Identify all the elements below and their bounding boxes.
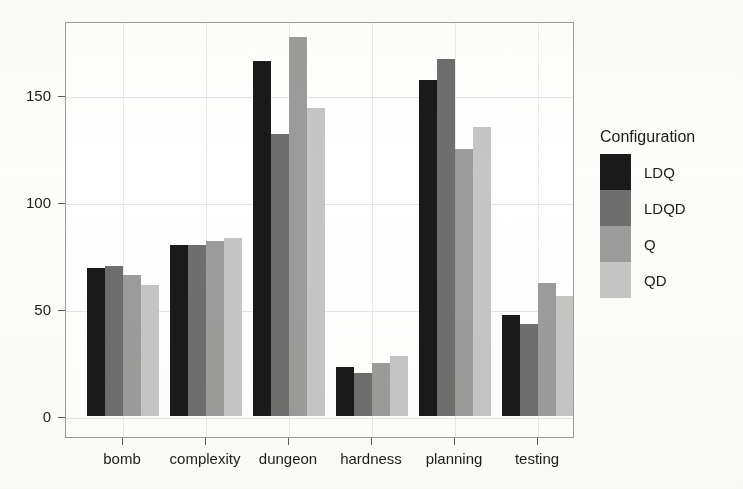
gridline-h — [66, 97, 573, 98]
legend-title: Configuration — [600, 128, 740, 146]
legend-swatch-LDQD — [600, 190, 631, 226]
bar-testing-QD — [556, 296, 573, 416]
legend-label-Q: Q — [644, 236, 656, 253]
bar-planning-QD — [473, 127, 491, 416]
gridline-h — [66, 418, 573, 419]
bar-complexity-LDQD — [188, 245, 206, 416]
legend-swatch-LDQ — [600, 154, 631, 190]
bar-complexity-QD — [224, 238, 242, 416]
plot-inner — [66, 23, 573, 437]
bar-testing-LDQ — [502, 315, 520, 416]
bar-dungeon-Q — [289, 37, 307, 416]
legend-swatch-Q — [600, 226, 631, 262]
y-tick-label: 0 — [0, 409, 51, 424]
bar-dungeon-LDQ — [253, 61, 271, 416]
bar-complexity-Q — [206, 241, 224, 416]
legend-item-QD[interactable]: QD — [600, 262, 740, 298]
y-tick-label: 50 — [0, 302, 51, 317]
bar-chart: 050100150 bombcomplexitydungeonhardnessp… — [0, 0, 743, 489]
bar-bomb-LDQ — [87, 268, 105, 416]
bar-planning-LDQD — [437, 59, 455, 416]
x-tick-mark — [537, 438, 538, 445]
x-tick-mark — [288, 438, 289, 445]
y-tick-label: 100 — [0, 195, 51, 210]
bar-planning-LDQ — [419, 80, 437, 416]
bar-complexity-LDQ — [170, 245, 188, 416]
x-tick-label: testing — [467, 451, 607, 466]
y-tick-mark — [58, 203, 65, 204]
bar-bomb-QD — [141, 285, 159, 416]
x-tick-mark — [371, 438, 372, 445]
legend-item-LDQD[interactable]: LDQD — [600, 190, 740, 226]
legend-entries: LDQLDQDQQD — [600, 154, 740, 298]
bar-bomb-Q — [123, 275, 141, 416]
bar-testing-Q — [538, 283, 556, 416]
plot-area — [65, 22, 574, 438]
legend-label-LDQ: LDQ — [644, 164, 675, 181]
y-tick-label: 150 — [0, 88, 51, 103]
legend-item-Q[interactable]: Q — [600, 226, 740, 262]
bar-planning-Q — [455, 149, 473, 417]
legend-label-QD: QD — [644, 272, 667, 289]
legend-swatch-QD — [600, 262, 631, 298]
y-tick-mark — [58, 417, 65, 418]
x-tick-mark — [122, 438, 123, 445]
x-tick-mark — [205, 438, 206, 445]
bar-dungeon-QD — [307, 108, 325, 416]
y-tick-mark — [58, 96, 65, 97]
legend: Configuration LDQLDQDQQD — [600, 128, 740, 298]
bar-hardness-Q — [372, 363, 390, 417]
y-tick-mark — [58, 310, 65, 311]
legend-label-LDQD: LDQD — [644, 200, 686, 217]
bar-dungeon-LDQD — [271, 134, 289, 416]
x-tick-mark — [454, 438, 455, 445]
bar-hardness-LDQ — [336, 367, 354, 416]
bar-hardness-LDQD — [354, 373, 372, 416]
bar-testing-LDQD — [520, 324, 538, 416]
legend-item-LDQ[interactable]: LDQ — [600, 154, 740, 190]
bar-hardness-QD — [390, 356, 408, 416]
bar-bomb-LDQD — [105, 266, 123, 416]
